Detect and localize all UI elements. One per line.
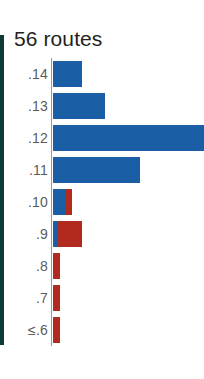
bar-segment-red <box>66 189 72 215</box>
bar-row: .7 <box>0 282 204 314</box>
bar-segment-blue <box>53 61 82 87</box>
bar-segment-red <box>53 253 60 279</box>
bar-row: ≤.6 <box>0 314 204 346</box>
axis-tick-label: .11 <box>4 154 48 186</box>
bar-row: .12 <box>0 122 204 154</box>
bar-row: .9 <box>0 218 204 250</box>
bar-segment-red <box>53 285 60 311</box>
axis-tick-label: .7 <box>4 282 48 314</box>
axis-tick-label: .13 <box>4 90 48 122</box>
bar-segment-blue <box>53 157 140 183</box>
bar-segment-blue <box>53 189 66 215</box>
axis-tick-label: .12 <box>4 122 48 154</box>
axis-tick-label: .10 <box>4 186 48 218</box>
bar-row: .14 <box>0 58 204 90</box>
axis-tick-label: .8 <box>4 250 48 282</box>
axis-tick-label: ≤.6 <box>4 314 48 346</box>
bar-row: .11 <box>0 154 204 186</box>
bar-row: .10 <box>0 186 204 218</box>
bar-segment-red <box>53 317 60 343</box>
axis-tick-label: .14 <box>4 58 48 90</box>
bar-segment-blue <box>53 93 105 119</box>
chart-title: 56 routes <box>14 26 102 52</box>
bar-row: .13 <box>0 90 204 122</box>
bar-row: .8 <box>0 250 204 282</box>
axis-tick-label: .9 <box>4 218 48 250</box>
bar-segment-blue <box>53 125 204 151</box>
histogram-plot: .14.13.12.11.10.9.8.7≤.6 <box>0 58 204 346</box>
bar-segment-red <box>57 221 82 247</box>
